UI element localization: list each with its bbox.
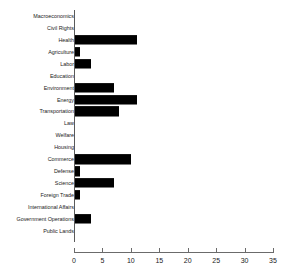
bar-row: Commerce [0,153,287,165]
bar [74,166,80,175]
category-label: Environment [44,85,74,91]
y-axis-line [74,10,75,242]
x-axis-line [74,252,273,253]
x-tick [131,248,132,253]
category-label: Welfare [56,132,74,138]
category-label: Education [50,73,74,79]
bar-row: Labor [0,58,287,70]
bar-row: Environment [0,82,287,94]
bar-row: Government Operations [0,213,287,225]
bar-row: Public Lands [0,225,287,237]
bar-row: Housing [0,141,287,153]
category-label: Energy [57,97,74,103]
x-axis: 05101520253035 [0,248,287,280]
x-tick-label: 35 [269,257,277,265]
bar-row: Welfare [0,129,287,141]
bar-track [74,59,91,68]
category-label: Macroeconomics [33,13,74,19]
bar-row: Transportation [0,106,287,118]
category-label: International Affairs [28,204,74,210]
bar [74,107,119,116]
bar-row: Defense [0,165,287,177]
category-label: Foreign Trade [40,192,74,198]
bar [74,155,131,164]
bar-track [74,214,91,223]
x-tick-label: 5 [100,257,104,265]
x-tick [159,248,160,253]
x-tick-label: 30 [241,257,249,265]
category-label: Transportation [39,108,74,114]
category-label: Science [55,180,74,186]
bar-row: Education [0,70,287,82]
bar-row: Law [0,117,287,129]
x-tick-label: 25 [212,257,220,265]
x-tick [273,248,274,253]
bar-row: International Affairs [0,201,287,213]
chart-title [0,0,287,2]
category-label: Civil Rights [47,25,74,31]
bar-row: Agriculture [0,46,287,58]
bar [74,178,114,187]
bar [74,190,80,199]
bar-track [74,190,80,199]
bar [74,214,91,223]
bar-row: Macroeconomics [0,10,287,22]
bar [74,35,137,44]
bar [74,95,137,104]
x-tick-label: 0 [72,257,76,265]
bar [74,47,80,56]
plot-area: MacroeconomicsCivil RightsHealthAgricult… [0,10,287,242]
category-label: Commerce [48,156,74,162]
x-tick-label: 10 [127,257,135,265]
x-tick [188,248,189,253]
category-label: Housing [54,144,74,150]
bar-row: Health [0,34,287,46]
x-tick [102,248,103,253]
category-label: Health [58,37,74,43]
category-label: Public Lands [43,228,74,234]
x-tick [216,248,217,253]
bar-row: Science [0,177,287,189]
bar-row: Civil Rights [0,22,287,34]
x-tick-label: 20 [184,257,192,265]
bar-chart: MacroeconomicsCivil RightsHealthAgricult… [0,0,287,280]
bar-track [74,178,114,187]
bar-track [74,47,80,56]
category-label: Government Operations [16,216,74,222]
bar-track [74,107,119,116]
bar-row: Foreign Trade [0,189,287,201]
category-label: Defense [54,168,74,174]
bar-track [74,155,131,164]
x-tick-label: 15 [155,257,163,265]
x-tick [74,248,75,253]
bar-row: Energy [0,94,287,106]
bar [74,59,91,68]
bar-track [74,83,114,92]
bar-track [74,166,80,175]
bar [74,83,114,92]
bar-track [74,35,137,44]
x-tick [245,248,246,253]
category-label: Agriculture [48,49,74,55]
category-label: Labor [60,61,74,67]
bar-track [74,95,137,104]
